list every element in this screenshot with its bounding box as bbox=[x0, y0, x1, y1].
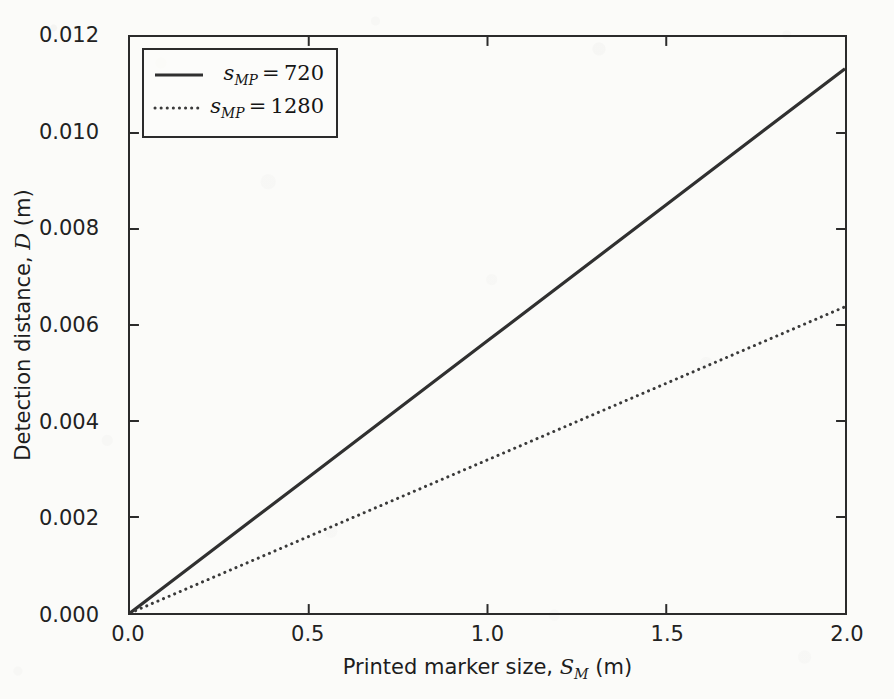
legend-solid-line-icon bbox=[152, 68, 206, 82]
y-tick-label-group: 0.0000.0020.0040.0060.0080.0100.012 bbox=[0, 35, 112, 615]
y-tick-label: 0.006 bbox=[39, 313, 112, 337]
y-tick-label: 0.012 bbox=[39, 23, 112, 47]
legend-dotted-line-icon bbox=[152, 101, 206, 115]
x-tick-label: 1.5 bbox=[651, 622, 684, 646]
legend-label: sMP = 720 bbox=[206, 61, 326, 88]
x-tick-label-group: 0.00.51.01.52.0 bbox=[128, 622, 847, 656]
y-tick-label: 0.004 bbox=[39, 410, 112, 434]
legend-label: sMP = 1280 bbox=[206, 94, 326, 121]
x-tick-label: 0.0 bbox=[111, 622, 144, 646]
x-tick-label: 2.0 bbox=[830, 622, 863, 646]
x-tick-label: 1.0 bbox=[471, 622, 504, 646]
data-line-series-1 bbox=[130, 307, 845, 613]
legend-box: sMP = 720sMP = 1280 bbox=[142, 48, 338, 138]
y-tick-label: 0.002 bbox=[39, 506, 112, 530]
figure-canvas: Detection distance, D (m) 0.0000.0020.00… bbox=[0, 0, 894, 699]
y-tick-label: 0.008 bbox=[39, 216, 112, 240]
x-axis-label: Printed marker size, SM (m) bbox=[128, 655, 847, 682]
data-line-series-0 bbox=[130, 69, 845, 613]
legend-row: sMP = 720 bbox=[152, 58, 326, 91]
x-tick-label: 0.5 bbox=[291, 622, 324, 646]
y-tick-label: 0.010 bbox=[39, 120, 112, 144]
legend-row: sMP = 1280 bbox=[152, 91, 326, 124]
y-tick-label: 0.000 bbox=[39, 603, 112, 627]
